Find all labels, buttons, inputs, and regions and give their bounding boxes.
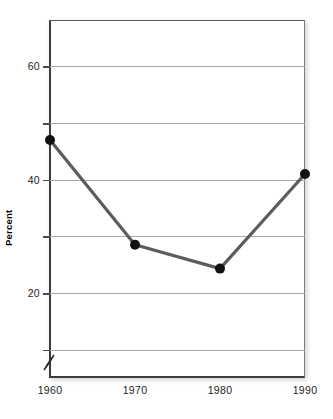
y-axis-tick-mark [43,236,50,238]
y-axis-tick-mark [43,123,50,125]
x-axis-tick-label: 1980 [208,384,233,396]
x-axis-tick-label: 1990 [293,384,318,396]
y-axis-tick-mark [43,180,50,182]
x-axis-tick-label: 1970 [123,384,148,396]
line-chart: 604020 1960197019801990 Percent [0,0,333,419]
y-axis-tick-label: 20 [28,287,40,299]
data-point [45,135,55,145]
axis-break-icon [43,352,59,374]
y-axis-tick-mark [43,350,50,352]
data-point [300,169,310,179]
y-axis-tick-label: 60 [28,60,40,72]
data-series-layer [50,21,305,378]
y-axis-tick-mark [43,66,50,68]
y-axis-tick-label: 40 [28,174,40,186]
series-line-percent [50,140,305,269]
y-axis-tick-mark [43,293,50,295]
plot-area: 604020 1960197019801990 [50,21,305,378]
series-markers [45,135,310,274]
x-axis-tick-label: 1960 [38,384,63,396]
data-point [130,240,140,250]
y-axis-title: Percent [3,210,14,246]
data-point [215,264,225,274]
